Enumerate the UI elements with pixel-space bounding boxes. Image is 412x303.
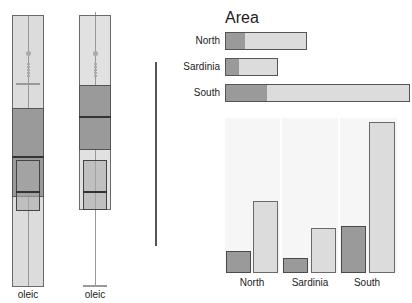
bar-south[interactable] [225, 84, 410, 102]
bar-south-selected[interactable] [341, 226, 366, 273]
bar-north-total[interactable] [253, 201, 278, 273]
bar-sardinia[interactable] [225, 58, 278, 76]
category-label: North [160, 35, 220, 46]
bar-sardinia-selected[interactable] [283, 258, 308, 273]
outlier-point [27, 69, 30, 71]
bar-north-selected[interactable] [226, 251, 251, 273]
category-label: Sardinia [160, 61, 220, 72]
outlier-point [94, 66, 97, 68]
bar-selected-segment [226, 33, 245, 49]
chart-title: Area [225, 9, 259, 27]
category-label: South [160, 87, 220, 98]
whisker-cap [16, 83, 40, 85]
outlier-point [27, 63, 30, 65]
panel-divider [155, 62, 157, 246]
x-tick-label: North [232, 277, 272, 288]
bar-selected-segment [226, 59, 239, 75]
inner-median [83, 191, 107, 193]
outlier-point [27, 75, 30, 77]
highlight-median [79, 116, 111, 118]
bar-south-total[interactable] [369, 122, 395, 273]
highlight-median [12, 156, 44, 158]
outlier-point [93, 51, 98, 56]
outlier-point [94, 75, 97, 77]
outlier-point [94, 72, 97, 74]
whisker-cap [83, 285, 107, 287]
outlier-point [94, 63, 97, 65]
bar-selected-segment [226, 85, 267, 101]
outlier-point [27, 72, 30, 74]
x-tick-label: South [347, 277, 387, 288]
outlier-point [26, 51, 31, 56]
inner-box [83, 160, 107, 210]
bar-north[interactable] [225, 32, 307, 50]
outlier-point [27, 66, 30, 68]
bar-sardinia-total[interactable] [311, 228, 336, 273]
x-tick-label: Sardinia [285, 277, 335, 288]
inner-median [16, 191, 40, 193]
variable-label: oleic [75, 289, 115, 300]
inner-box [16, 160, 40, 211]
variable-label: oleic [8, 289, 48, 300]
outlier-point [94, 69, 97, 71]
